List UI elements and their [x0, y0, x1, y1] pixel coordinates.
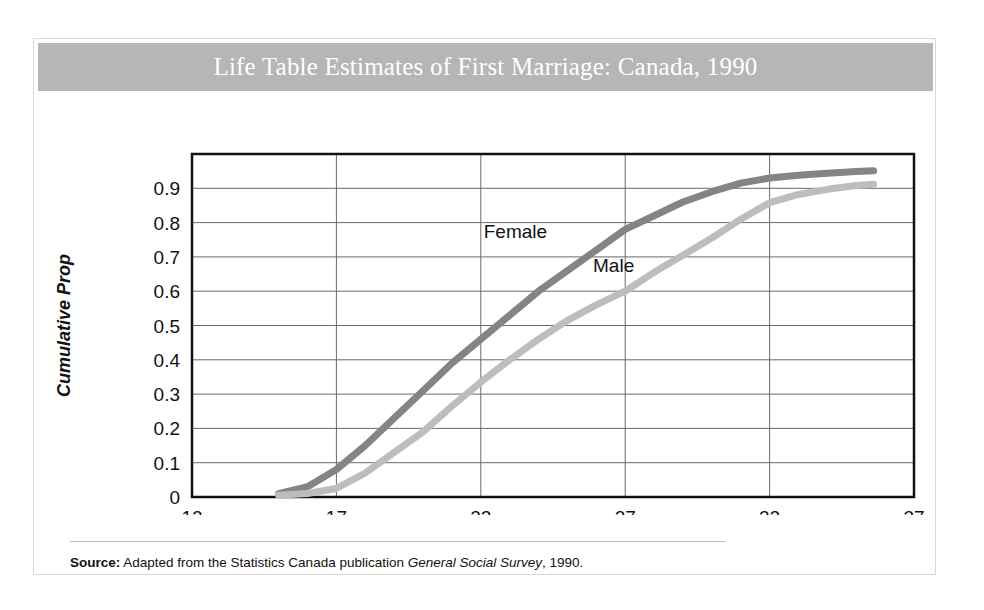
source-text-part2: , 1990.	[542, 555, 583, 570]
y-axis-tick-label: 0.5	[154, 316, 180, 337]
source-note: Source: Adapted from the Statistics Cana…	[70, 555, 900, 570]
y-axis-tick-label: 0.8	[154, 213, 180, 234]
y-axis-tick-label: 0.3	[154, 384, 180, 405]
source-text-part1: Adapted from the Statistics Canada publi…	[123, 555, 404, 570]
series-line-female	[279, 171, 874, 494]
series-line-male	[279, 184, 874, 495]
line-chart: FemaleMale00.10.20.30.40.50.60.70.80.912…	[38, 95, 933, 515]
source-label: Source:	[70, 555, 120, 570]
y-axis-tick-label: 0.1	[154, 453, 180, 474]
y-axis-tick-label: 0.7	[154, 247, 180, 268]
figure-card: Life Table Estimates of First Marriage: …	[33, 38, 936, 575]
y-axis-tick-label: 0.2	[154, 418, 180, 439]
y-axis-tick-label: 0.9	[154, 178, 180, 199]
figure-title: Life Table Estimates of First Marriage: …	[213, 53, 757, 81]
x-axis-tick-label: 22	[470, 507, 491, 515]
source-divider	[70, 541, 725, 542]
source-publication-name: General Social Survey	[408, 555, 542, 570]
y-axis-tick-label: 0.6	[154, 281, 180, 302]
x-axis-tick-label: 12	[181, 507, 202, 515]
series-label-male: Male	[593, 255, 634, 276]
title-banner: Life Table Estimates of First Marriage: …	[38, 43, 933, 91]
y-axis-tick-label: 0	[169, 487, 180, 508]
x-axis-tick-label: 27	[615, 507, 636, 515]
chart-plot-area: FemaleMale00.10.20.30.40.50.60.70.80.912…	[38, 95, 933, 515]
x-axis-tick-label: 32	[759, 507, 780, 515]
series-label-female: Female	[484, 221, 547, 242]
x-axis-tick-label: 17	[326, 507, 347, 515]
y-axis-title: Cumulative Prop	[54, 254, 74, 397]
x-axis-tick-label: 37	[903, 507, 924, 515]
y-axis-tick-label: 0.4	[154, 350, 181, 371]
